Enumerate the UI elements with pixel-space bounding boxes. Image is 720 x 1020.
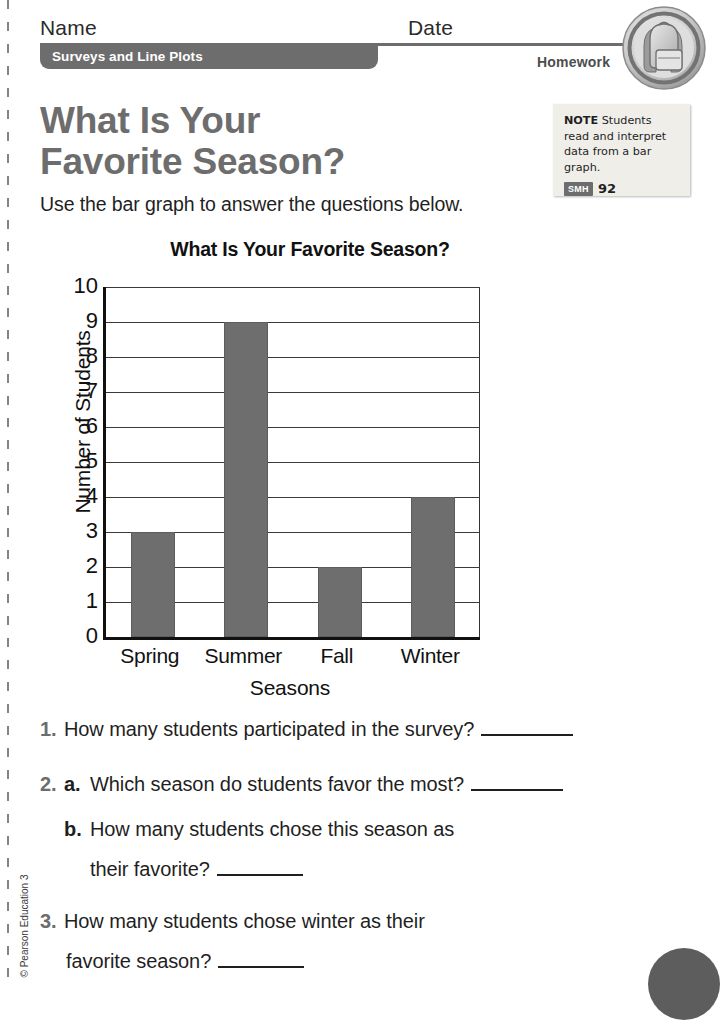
y-tick-label: 1 [66, 590, 98, 612]
smh-page-number: 92 [598, 181, 616, 196]
question-row: their favorite? [90, 858, 303, 881]
perforation-line [7, 0, 9, 978]
page-title: What Is Your Favorite Season? [40, 100, 510, 182]
bar-fall [318, 567, 362, 637]
gridline [106, 322, 480, 323]
y-tick-label: 2 [66, 555, 98, 577]
question-text: Which season do students favor the most? [90, 773, 464, 796]
note-keyword: NOTE [564, 114, 598, 127]
bar-winter [411, 497, 455, 637]
lesson-title-text: Surveys and Line Plots [40, 49, 203, 64]
question-row: 3.How many students chose winter as thei… [40, 910, 425, 933]
question-row: b.How many students chose this season as [64, 818, 454, 841]
question-row: favorite season? [66, 950, 304, 973]
smh-reference: SMH 92 [564, 181, 680, 196]
question-text: their favorite? [90, 858, 210, 881]
x-tick-label: Winter [370, 644, 490, 668]
copyright-notice: © Pearson Education 3 [19, 838, 30, 978]
page-number-badge [648, 948, 720, 1020]
chart-y-ticks: 109876543210 [54, 287, 98, 637]
smh-chip: SMH [564, 182, 593, 196]
assignment-type-label: Homework [537, 54, 610, 70]
bar-summer [224, 322, 268, 637]
y-tick-label: 3 [66, 520, 98, 542]
question-sub-letter: a. [64, 773, 90, 796]
backpack-icon [620, 4, 708, 92]
y-tick-label: 4 [66, 485, 98, 507]
answer-blank[interactable] [471, 776, 563, 791]
question-text: How many students chose winter as their [64, 910, 425, 933]
bar-spring [131, 532, 175, 637]
gridline [106, 287, 480, 288]
worksheet-header: Name Date Surveys and Line Plots Homewor… [40, 16, 680, 88]
lesson-title-chip: Surveys and Line Plots [40, 43, 378, 69]
gridline [106, 427, 480, 428]
answer-blank[interactable] [481, 721, 573, 736]
chart-x-axis-label: Seasons [103, 676, 477, 700]
question-number: 2. [40, 773, 64, 796]
page-title-line1: What Is Your [40, 100, 510, 141]
note-text: NOTE Students read and interpret data fr… [564, 113, 680, 175]
y-tick-label: 8 [66, 345, 98, 367]
page-title-line2: Favorite Season? [40, 141, 510, 182]
chart-title: What Is Your Favorite Season? [100, 238, 520, 261]
y-tick-label: 5 [66, 450, 98, 472]
answer-blank[interactable] [217, 861, 303, 876]
answer-blank[interactable] [218, 953, 304, 968]
question-row: 1.How many students participated in the … [40, 718, 573, 741]
name-label: Name [40, 16, 97, 40]
question-sub-letter: b. [64, 818, 90, 841]
question-row: 2.a.Which season do students favor the m… [40, 773, 563, 796]
y-tick-label: 7 [66, 380, 98, 402]
gridline [106, 357, 480, 358]
chart-plot-area [103, 287, 480, 640]
question-text: How many students chose this season as [90, 818, 454, 841]
question-text: favorite season? [66, 950, 211, 973]
question-text: How many students participated in the su… [64, 718, 474, 741]
bar-chart: What Is Your Favorite Season? Number of … [40, 238, 500, 703]
question-number: 3. [40, 910, 64, 933]
y-tick-label: 10 [66, 275, 98, 297]
gridline [106, 392, 480, 393]
y-tick-label: 6 [66, 415, 98, 437]
date-label: Date [408, 16, 453, 40]
instruction-text: Use the bar graph to answer the question… [40, 193, 530, 216]
note-card: NOTE Students read and interpret data fr… [553, 104, 690, 196]
gridline [106, 462, 480, 463]
y-tick-label: 9 [66, 310, 98, 332]
question-number: 1. [40, 718, 64, 741]
